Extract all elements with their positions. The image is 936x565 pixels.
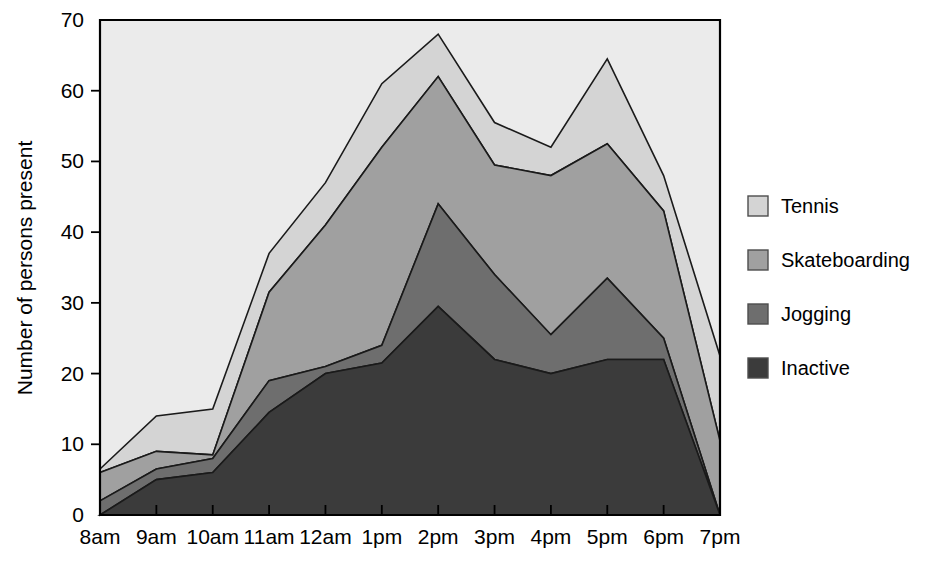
legend-label-jogging: Jogging: [781, 303, 851, 325]
legend-swatch-tennis: [748, 196, 768, 216]
x-tick-label-8am: 8am: [80, 525, 121, 548]
y-tick-label: 10: [61, 432, 84, 455]
chart-legend: TennisSkateboardingJoggingInactive: [748, 195, 910, 379]
x-tick-label-3pm: 3pm: [474, 525, 515, 548]
y-tick-label: 70: [61, 8, 84, 31]
x-tick-label-1pm: 1pm: [361, 525, 402, 548]
x-tick-label-10am: 10am: [186, 525, 239, 548]
x-tick-label-12am: 12am: [299, 525, 352, 548]
y-axis-ticks: 010203040506070: [61, 8, 100, 526]
x-tick-label-5pm: 5pm: [587, 525, 628, 548]
x-tick-label-11am: 11am: [244, 525, 295, 548]
legend-swatch-inactive: [748, 358, 768, 378]
legend-label-skateboarding: Skateboarding: [781, 249, 910, 271]
legend-label-tennis: Tennis: [781, 195, 839, 217]
y-tick-label: 0: [72, 503, 84, 526]
x-tick-label-7pm: 7pm: [700, 525, 741, 548]
y-tick-label: 60: [61, 79, 84, 102]
y-tick-label: 40: [61, 220, 84, 243]
x-axis-tick-labels: 8am9am10am11am12am1pm2pm3pm4pm5pm6pm7pm: [80, 525, 741, 548]
y-tick-label: 50: [61, 149, 84, 172]
stacked-area-chart: 010203040506070 8am9am10am11am12am1pm2pm…: [0, 0, 936, 565]
y-tick-label: 20: [61, 362, 84, 385]
y-tick-label: 30: [61, 291, 84, 314]
x-tick-label-4pm: 4pm: [530, 525, 571, 548]
x-tick-label-6pm: 6pm: [643, 525, 684, 548]
legend-swatch-jogging: [748, 304, 768, 324]
legend-label-inactive: Inactive: [781, 357, 850, 379]
chart-figure: 010203040506070 8am9am10am11am12am1pm2pm…: [0, 0, 936, 565]
legend-swatch-skateboarding: [748, 250, 768, 270]
y-axis-title: Number of persons present: [13, 141, 36, 396]
x-tick-label-9am: 9am: [136, 525, 177, 548]
x-tick-label-2pm: 2pm: [418, 525, 459, 548]
